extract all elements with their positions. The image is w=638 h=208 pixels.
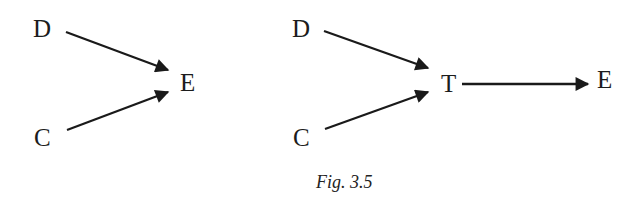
node-d-right: D bbox=[292, 16, 310, 41]
node-c-right: C bbox=[293, 125, 310, 150]
edge-d-to-t bbox=[324, 31, 428, 68]
node-e-left: E bbox=[180, 70, 195, 95]
edge-c-to-t bbox=[325, 92, 428, 129]
edge-d-to-e-left bbox=[66, 32, 168, 70]
figure-caption: Fig. 3.5 bbox=[316, 172, 373, 193]
node-c-left: C bbox=[34, 125, 51, 150]
node-d-left: D bbox=[33, 16, 51, 41]
node-t: T bbox=[441, 71, 456, 96]
edge-c-to-e-left bbox=[67, 92, 168, 130]
node-e-right: E bbox=[597, 67, 612, 92]
